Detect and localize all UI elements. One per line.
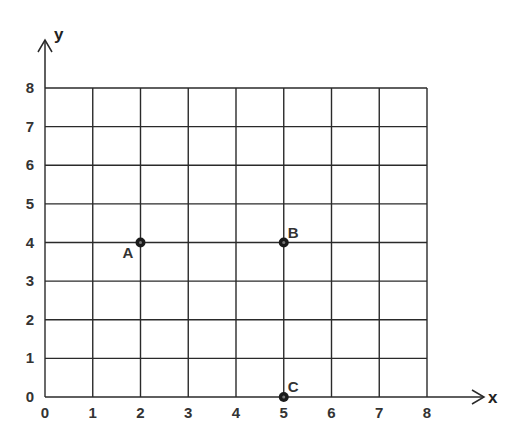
x-tick-label: 3 (184, 404, 192, 421)
y-tick-label: 1 (26, 349, 34, 366)
y-tick-label: 3 (26, 272, 34, 289)
y-tick-label: 4 (26, 234, 35, 251)
point-a: A (123, 238, 146, 261)
point-c: C (279, 378, 299, 402)
y-tick-label: 6 (26, 156, 34, 173)
x-tick-labels: 012345678 (41, 404, 431, 421)
x-tick-label: 2 (136, 404, 144, 421)
point-marker-center (139, 241, 142, 244)
point-marker-center (282, 241, 285, 244)
y-tick-label: 2 (26, 311, 34, 328)
point-b: B (279, 224, 299, 248)
y-tick-labels: 012345678 (26, 79, 35, 405)
x-tick-label: 6 (327, 404, 335, 421)
x-tick-label: 0 (41, 404, 49, 421)
y-tick-label: 7 (26, 118, 34, 135)
data-points: ABC (123, 224, 299, 403)
x-tick-label: 7 (375, 404, 383, 421)
x-tick-label: 5 (280, 404, 288, 421)
x-tick-label: 1 (89, 404, 97, 421)
grid-lines (45, 88, 427, 397)
point-label: B (288, 224, 299, 241)
y-axis-label: y (54, 25, 64, 44)
point-label: A (123, 244, 134, 261)
y-tick-label: 5 (26, 195, 34, 212)
y-tick-label: 0 (26, 388, 34, 405)
x-tick-label: 4 (232, 404, 241, 421)
x-axis-label: x (488, 388, 498, 407)
x-tick-label: 8 (423, 404, 431, 421)
axes: y x (38, 25, 498, 407)
coordinate-grid-chart: y x 012345678 012345678 ABC (0, 0, 514, 440)
point-marker-center (282, 396, 285, 399)
point-label: C (288, 378, 299, 395)
y-tick-label: 8 (26, 79, 34, 96)
